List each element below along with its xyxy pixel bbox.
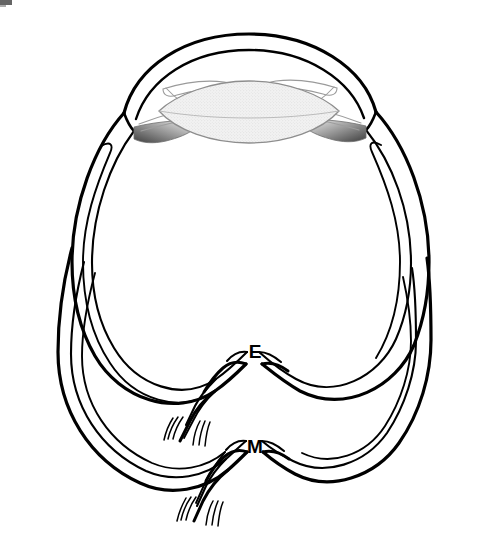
eye-cross-section-drawing: E M [0,0,483,549]
label-E: E [249,341,262,362]
scan-artifact-tail [0,5,6,7]
scan-artifact [0,0,12,5]
eye-diagram-figure: E M [0,0,483,549]
label-M: M [247,436,263,457]
